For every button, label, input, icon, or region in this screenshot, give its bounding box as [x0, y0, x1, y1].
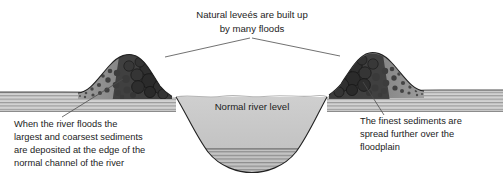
left-caption-line4: normal channel of the river: [14, 158, 124, 168]
right-caption-line2: spread further over the: [360, 129, 454, 139]
diagram-canvas: Natural leveés are built up by many floo…: [0, 0, 503, 181]
top-label-line1: Natural leveés are built up: [196, 9, 307, 20]
right-caption-line1: The finest sediments are: [360, 116, 462, 126]
left-caption-line2: largest and coarsest sediments: [14, 132, 143, 142]
water-level-label: Normal river level: [215, 101, 290, 112]
water-level-line1: Normal river level: [215, 101, 290, 112]
right-caption-line3: floodplain: [360, 142, 400, 152]
levee-diagram-figure: Natural leveés are built up by many floo…: [0, 0, 503, 181]
left-caption-line3: are deposited at the edge of the: [14, 145, 145, 155]
left-caption-line1: When the river floods the: [14, 119, 117, 129]
top-label-line2: by many floods: [220, 23, 285, 34]
